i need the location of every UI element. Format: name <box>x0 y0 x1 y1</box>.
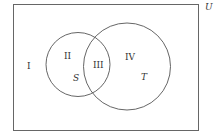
region-ii-label: II <box>64 51 72 61</box>
region-iv-label: IV <box>125 52 136 62</box>
region-i-label: I <box>27 61 31 71</box>
universe-label: U <box>205 2 213 12</box>
set-t-label: T <box>141 72 148 82</box>
set-s-label: S <box>73 73 79 83</box>
venn-diagram: U I II III IV S T <box>0 0 223 139</box>
region-iii-label: III <box>93 60 104 70</box>
